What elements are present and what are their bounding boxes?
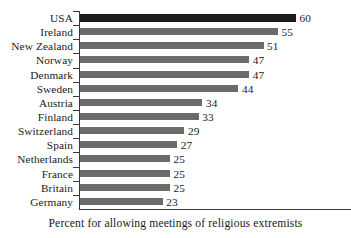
axis-tick <box>73 96 79 97</box>
bar-row: Finland33 <box>0 110 351 124</box>
bar-value-label: 47 <box>253 68 265 82</box>
bar <box>80 198 163 205</box>
bar-row: France25 <box>0 167 351 181</box>
bar-value-label: 34 <box>206 96 218 110</box>
bar <box>80 141 177 148</box>
category-label: Finland <box>38 110 73 124</box>
axis-tick <box>73 53 79 54</box>
category-label: Germany <box>30 195 73 209</box>
bar-value-label: 29 <box>188 124 200 138</box>
bar-value-label: 51 <box>267 39 279 53</box>
bar-row: Netherlands25 <box>0 152 351 166</box>
category-label: Ireland <box>40 25 73 39</box>
axis-tick <box>73 11 79 12</box>
x-axis-caption: Percent for allowing meetings of religio… <box>0 217 351 230</box>
bar <box>80 170 170 177</box>
bar-chart: USA60Ireland55New Zealand51Norway47Denma… <box>0 0 351 238</box>
bar-value-label: 44 <box>242 82 254 96</box>
bar-value-label: 25 <box>174 167 186 181</box>
bar-value-label: 55 <box>282 25 294 39</box>
bar-row: USA60 <box>0 11 351 25</box>
bar-value-label: 23 <box>166 195 178 209</box>
plot-area: USA60Ireland55New Zealand51Norway47Denma… <box>0 11 351 210</box>
category-label: Switzerland <box>18 124 73 138</box>
bar <box>80 56 249 63</box>
bar <box>80 85 238 92</box>
bar-value-label: 25 <box>174 152 186 166</box>
category-label: Sweden <box>37 82 73 96</box>
bar <box>80 127 184 134</box>
axis-tick <box>73 82 79 83</box>
bar-value-label: 25 <box>174 181 186 195</box>
bar <box>80 184 170 191</box>
category-label: Britain <box>41 181 73 195</box>
bar-row: Switzerland29 <box>0 124 351 138</box>
axis-tick <box>73 167 79 168</box>
axis-tick <box>73 138 79 139</box>
bar <box>80 14 296 22</box>
axis-tick <box>73 152 79 153</box>
bar-rows: USA60Ireland55New Zealand51Norway47Denma… <box>0 11 351 209</box>
axis-tick <box>73 25 79 26</box>
bar-row: Spain27 <box>0 138 351 152</box>
x-axis-line <box>79 209 351 210</box>
bar <box>80 155 170 162</box>
bar-row: Ireland55 <box>0 25 351 39</box>
category-label: Austria <box>39 96 73 110</box>
bar-row: Germany23 <box>0 195 351 209</box>
bar-row: Austria34 <box>0 96 351 110</box>
bar-value-label: 60 <box>300 11 312 25</box>
axis-tick <box>73 195 79 196</box>
category-label: France <box>42 167 73 181</box>
bar-row: New Zealand51 <box>0 39 351 53</box>
axis-tick <box>73 124 79 125</box>
axis-tick <box>73 39 79 40</box>
bar <box>80 28 278 35</box>
bar <box>80 42 264 49</box>
category-label: Norway <box>36 53 73 67</box>
category-label: Denmark <box>30 68 73 82</box>
category-label: Netherlands <box>17 152 73 166</box>
bar <box>80 71 249 78</box>
axis-tick <box>73 181 79 182</box>
category-label: New Zealand <box>11 39 73 53</box>
axis-tick <box>73 68 79 69</box>
bar <box>80 113 199 120</box>
category-label: Spain <box>47 138 73 152</box>
category-label: USA <box>50 11 73 25</box>
bar-value-label: 33 <box>202 110 214 124</box>
bar-row: Britain25 <box>0 181 351 195</box>
bar-row: Norway47 <box>0 53 351 67</box>
bar <box>80 99 202 106</box>
bar-value-label: 27 <box>181 138 193 152</box>
bar-row: Sweden44 <box>0 82 351 96</box>
bar-row: Denmark47 <box>0 68 351 82</box>
bar-value-label: 47 <box>253 53 265 67</box>
axis-tick <box>73 110 79 111</box>
